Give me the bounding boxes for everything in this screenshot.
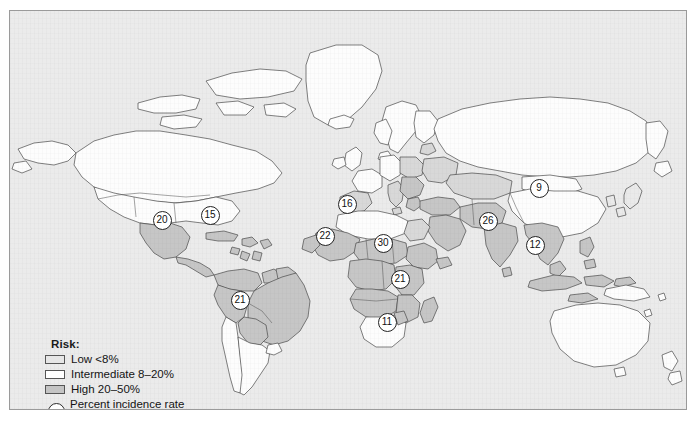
legend-title: Risk:: [51, 338, 250, 350]
map-legend: Risk: Low <8% Intermediate 8–20% High 20…: [45, 338, 250, 410]
legend-swatch-high: [45, 385, 65, 394]
screenshot-root: .c { stroke:#4a4a4a; stroke-width:0.7; s…: [0, 0, 700, 428]
incidence-marker-mexico: 20: [153, 211, 172, 230]
legend-swatch-low: [45, 355, 65, 364]
legend-label-incidence: Percent incidence ratein the first 2 wee…: [70, 398, 184, 410]
legend-item-low: Low <8%: [45, 352, 250, 367]
legend-label-intermediate: Intermediate 8–20%: [71, 368, 174, 381]
incidence-marker-caribbean: 15: [201, 206, 220, 225]
incidence-marker-india: 26: [479, 212, 498, 231]
incidence-marker-brazil: 21: [231, 291, 250, 310]
legend-item-intermediate: Intermediate 8–20%: [45, 367, 250, 382]
incidence-marker-southern-africa: 11: [378, 313, 397, 332]
legend-label-high: High 20–50%: [71, 383, 140, 396]
incidence-marker-west-africa: 22: [316, 227, 335, 246]
legend-item-incidence: Percent incidence ratein the first 2 wee…: [45, 398, 250, 410]
legend-label-low: Low <8%: [71, 353, 119, 366]
open-circle-icon: [48, 403, 65, 410]
incidence-marker-north-africa: 16: [338, 195, 357, 214]
incidence-marker-central-africa: 30: [374, 234, 393, 253]
incidence-marker-china: 9: [530, 179, 549, 198]
legend-incidence-line1: Percent incidence rate: [70, 398, 184, 410]
legend-item-high: High 20–50%: [45, 382, 250, 397]
incidence-marker-southeast-asia: 12: [526, 236, 545, 255]
incidence-marker-east-africa: 21: [391, 270, 410, 289]
world-risk-map: .c { stroke:#4a4a4a; stroke-width:0.7; s…: [9, 10, 687, 410]
legend-swatch-intermediate: [45, 370, 65, 379]
